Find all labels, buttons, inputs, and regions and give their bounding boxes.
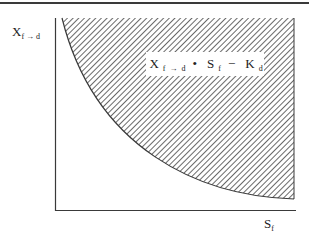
plot-area — [0, 0, 309, 239]
hatched-region — [62, 18, 294, 199]
x-axis-label: Sf — [264, 216, 274, 233]
equation-label: Xf → d • Sf − Kd — [146, 52, 264, 76]
y-axis-label: Xf → d — [12, 24, 40, 41]
multiply-operator: • — [192, 56, 198, 72]
minus-operator: − — [228, 56, 236, 72]
